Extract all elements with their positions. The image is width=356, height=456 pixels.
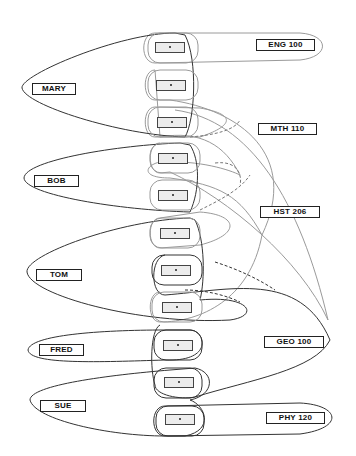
enrollment-slot: [158, 190, 188, 201]
course-label-mth110: MTH 110: [258, 123, 317, 135]
student-label-fred: FRED: [39, 344, 84, 356]
student-label-tom: TOM: [36, 269, 82, 281]
enrollment-slot: [161, 265, 191, 276]
dashed-connector: [215, 262, 275, 290]
enrollment-slot: [155, 42, 185, 53]
course-label-hst206: HST 206: [260, 206, 320, 218]
enrollment-slot: [157, 117, 187, 128]
enrollment-slot: [156, 80, 186, 91]
student-label-bob: BOB: [34, 175, 79, 187]
student-label-sue: SUE: [40, 400, 86, 412]
student-label-mary: MARY: [32, 83, 76, 95]
course-label-eng100: ENG 100: [256, 39, 315, 51]
enrollment-slot: [162, 302, 192, 313]
course-label-phy120: PHY 120: [266, 412, 325, 424]
enrollment-slot: [160, 228, 190, 239]
enrollment-slot: [164, 377, 194, 388]
enrollment-slot: [165, 414, 195, 425]
enrollment-slot: [163, 340, 193, 351]
course-label-geo100: GEO 100: [264, 336, 324, 348]
enrollment-slot: [158, 153, 188, 164]
